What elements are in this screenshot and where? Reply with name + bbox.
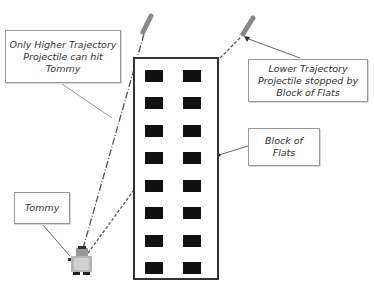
higher-trajectory-label: Only Higher Trajectory Projectile can hi… — [5, 30, 121, 83]
lower-label-leader — [246, 38, 300, 58]
higher-label-leader — [62, 84, 112, 118]
lower-trajectory-path-2 — [88, 190, 134, 253]
block-of-flats — [134, 58, 218, 279]
block-label-leader — [219, 146, 248, 155]
higher-projectile-icon — [143, 16, 151, 32]
tommy-label: Tommy — [14, 192, 70, 224]
tommy-figure-icon — [68, 246, 92, 275]
lower-trajectory-path — [218, 38, 240, 60]
block-of-flats-label: Block of Flats — [248, 128, 320, 166]
lower-projectile-icon — [243, 18, 253, 34]
tommy-label-leader — [42, 224, 70, 256]
lower-trajectory-label: Lower Trajectory Projectile stopped by B… — [248, 59, 368, 102]
